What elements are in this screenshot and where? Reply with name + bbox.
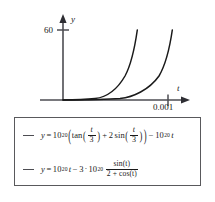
eq2-fraction: sin(t) 2 + cos(t) <box>106 160 138 178</box>
eq2-fraction-denominator: 2 + cos(t) <box>106 169 138 178</box>
plot-svg <box>0 0 215 112</box>
eq1-variable-t: t <box>171 131 173 140</box>
eq1-base: 10 <box>53 131 62 140</box>
eq1-sin-name: sin <box>115 131 125 140</box>
eq1-sin-open-paren: ( <box>125 128 128 141</box>
legend-box: y = 1020 ( tan ( t 3 ) + 2 sin ( t 3 <box>14 117 201 186</box>
y-tick-label-60: 60 <box>44 26 53 35</box>
eq2-base-2: 10 <box>88 165 97 174</box>
y-axis-label: y <box>71 15 75 24</box>
curve-series-2 <box>63 30 172 100</box>
eq1-sin-numerator: t <box>131 126 137 135</box>
eq2-fraction-numerator: sin(t) <box>113 160 132 168</box>
eq1-sin-close-paren: ) <box>140 128 143 141</box>
eq1-sin-fraction: t 3 <box>130 126 138 145</box>
eq1-tan-close-paren: ) <box>97 128 100 141</box>
x-axis-label: t <box>177 84 180 93</box>
eq1-tan-fraction: t 3 <box>88 126 96 145</box>
eq1-equals: = <box>46 131 51 140</box>
eq1-open-paren: ( <box>68 126 71 143</box>
eq2-minus: − <box>73 165 78 174</box>
eq1-close-paren: ) <box>144 126 147 143</box>
legend-entry-1: y = 1020 ( tan ( t 3 ) + 2 sin ( t 3 <box>15 118 200 152</box>
eq2-base: 10 <box>53 165 62 174</box>
eq2-equals: = <box>46 165 51 174</box>
eq1-tan-denominator: 3 <box>88 135 96 145</box>
legend-equation-1: y = 1020 ( tan ( t 3 ) + 2 sin ( t 3 <box>41 126 200 145</box>
eq2-variable-t: t <box>69 165 71 174</box>
legend-line-marker-1 <box>23 135 34 136</box>
eq1-base-2: 10 <box>155 131 164 140</box>
eq1-plus: + <box>102 131 107 140</box>
eq1-minus: − <box>149 131 154 140</box>
eq1-lhs: y <box>41 131 45 140</box>
eq2-lhs: y <box>41 165 45 174</box>
eq2-coefficient: 3 <box>79 165 83 174</box>
eq1-tan-numerator: t <box>88 126 94 135</box>
curve-series-1 <box>63 30 137 100</box>
eq1-tan-open-paren: ( <box>83 128 86 141</box>
plot-area: y t 60 0.001 <box>0 0 215 112</box>
legend-entry-2: y = 1020 t − 3 · 1020 sin(t) 2 + cos(t) <box>15 152 200 186</box>
eq1-coefficient-2: 2 <box>109 131 113 140</box>
y-axis <box>59 14 66 100</box>
figure-container: y t 60 0.001 y = 1020 ( tan ( t 3 ) + 2 … <box>0 0 215 202</box>
eq1-sin-denominator: 3 <box>130 135 138 145</box>
x-tick-label-0001: 0.001 <box>153 103 173 112</box>
eq1-tan-name: tan <box>72 131 83 140</box>
eq2-dot-operator: · <box>85 164 88 173</box>
legend-line-marker-2 <box>23 169 34 170</box>
legend-equation-2: y = 1020 t − 3 · 1020 sin(t) 2 + cos(t) <box>41 160 200 178</box>
